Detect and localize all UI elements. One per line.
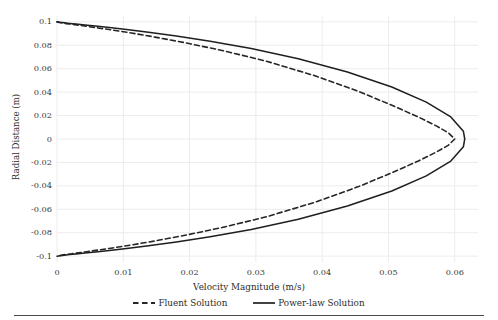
- velocity-profile-figure: 0.10.080.060.040.020-0.02-0.04-0.06-0.08…: [0, 0, 498, 320]
- solid-line-icon: [253, 299, 275, 307]
- y-tick-label: -0.08: [8, 228, 52, 236]
- legend-label-fluent: Fluent Solution: [158, 298, 227, 308]
- y-tick-label: -0.1: [8, 252, 52, 260]
- gridlines-group: [57, 16, 478, 262]
- x-tick-label: 0.04: [297, 268, 347, 276]
- x-tick-label: 0: [32, 268, 82, 276]
- x-tick-label: 0.05: [363, 268, 413, 276]
- chart-legend: Fluent Solution Power-law Solution: [0, 298, 498, 308]
- x-tick-label: 0.01: [98, 268, 148, 276]
- y-tick-label: 0.08: [8, 41, 52, 49]
- x-tick-label: 0.06: [430, 268, 480, 276]
- y-tick-label: 0.1: [8, 17, 52, 25]
- x-tick-label: 0.02: [165, 268, 215, 276]
- legend-entry-powerlaw: Power-law Solution: [253, 298, 364, 308]
- y-axis-label: Radial Distance (m): [11, 62, 21, 212]
- legend-label-powerlaw: Power-law Solution: [278, 298, 364, 308]
- legend-entry-fluent: Fluent Solution: [133, 298, 227, 308]
- dashed-line-icon: [133, 299, 155, 307]
- x-axis-label: Velocity Magnitude (m/s): [0, 282, 498, 292]
- x-tick-label: 0.03: [231, 268, 281, 276]
- bottom-divider: [14, 315, 484, 316]
